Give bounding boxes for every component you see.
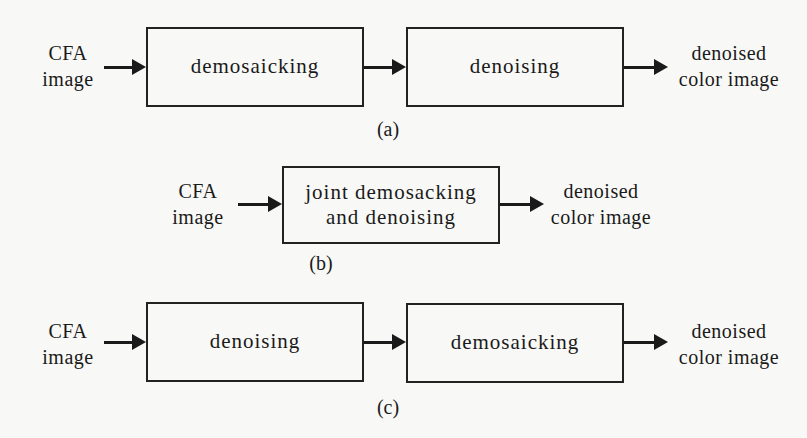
denoising-block: denoising <box>146 302 364 382</box>
demosaicking-block: demosaicking <box>406 303 624 383</box>
caption-b: (b) <box>303 252 339 275</box>
input-label-a: CFA image <box>28 40 108 92</box>
demosaicking-block: demosaicking <box>146 27 364 107</box>
input-label-b: CFA image <box>158 178 238 230</box>
joint-demosaicking-denoising-block: joint demosacking and denoising <box>282 166 500 244</box>
output-label-b: denoised color image <box>536 178 666 230</box>
denoising-block: denoising <box>406 27 624 107</box>
caption-c: (c) <box>370 396 406 419</box>
input-label-c: CFA image <box>28 318 108 370</box>
output-label-a: denoised color image <box>664 40 794 92</box>
output-label-c: denoised color image <box>664 318 794 370</box>
caption-a: (a) <box>370 118 406 141</box>
